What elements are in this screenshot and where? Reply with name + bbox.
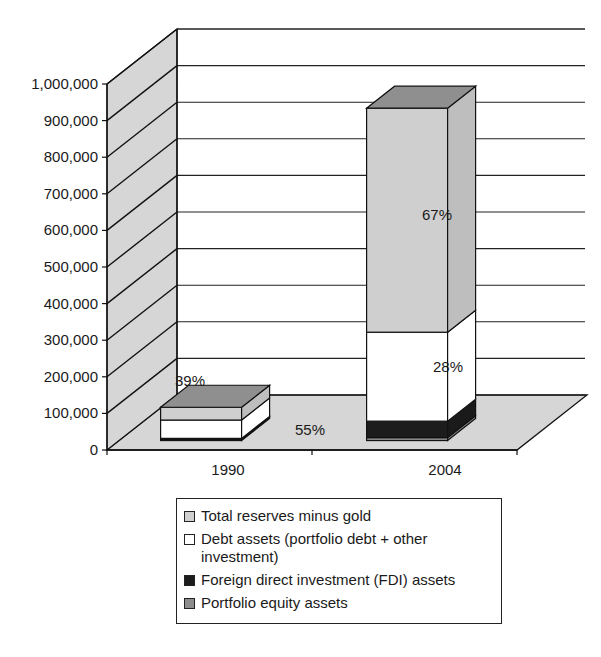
legend-label: Total reserves minus gold <box>201 507 497 525</box>
y-tick-label: 700,000 <box>44 185 98 202</box>
data-label: 28% <box>433 358 463 375</box>
legend-label: Debt assets (portfolio debt + other inve… <box>201 530 497 566</box>
y-tick-label: 100,000 <box>44 404 98 421</box>
data-label: 39% <box>175 372 205 389</box>
y-tick-label: 0 <box>90 441 98 458</box>
y-tick-label: 900,000 <box>44 112 98 129</box>
gridlines <box>107 29 585 413</box>
y-tick-label: 800,000 <box>44 148 98 165</box>
legend-swatch-fdi-assets <box>184 575 195 586</box>
legend-swatch-debt-assets <box>184 534 195 545</box>
y-tick-label: 1,000,000 <box>31 75 98 92</box>
legend-label: Portfolio equity assets <box>201 594 497 612</box>
data-label: 55% <box>295 421 325 438</box>
legend-swatch-portfolio-equity <box>184 598 195 609</box>
y-tick-label: 400,000 <box>44 295 98 312</box>
y-tick-label: 600,000 <box>44 221 98 238</box>
legend-label: Foreign direct investment (FDI) assets <box>201 571 497 589</box>
legend-item-fdi-assets: Foreign direct investment (FDI) assets <box>184 571 497 589</box>
bar-segment <box>367 421 448 437</box>
x-tick-label: 1990 <box>211 461 244 478</box>
bars <box>161 86 476 440</box>
bar-segment <box>161 407 242 420</box>
bar-segment <box>367 332 448 421</box>
data-label: 67% <box>422 206 452 223</box>
y-tick-label: 200,000 <box>44 368 98 385</box>
legend-swatch-total-reserves <box>184 511 195 522</box>
legend: Total reserves minus gold Debt assets (p… <box>176 498 502 624</box>
bar-segment <box>161 420 242 438</box>
stacked-3d-bar-chart: 0100,000200,000300,000400,000500,000600,… <box>0 0 601 497</box>
bar-2004 <box>367 86 476 440</box>
legend-item-total-reserves: Total reserves minus gold <box>184 507 497 525</box>
legend-item-debt-assets: Debt assets (portfolio debt + other inve… <box>184 530 497 566</box>
y-tick-label: 300,000 <box>44 331 98 348</box>
x-tick-label: 2004 <box>428 461 461 478</box>
y-tick-label: 500,000 <box>44 258 98 275</box>
legend-item-portfolio-equity: Portfolio equity assets <box>184 594 497 612</box>
